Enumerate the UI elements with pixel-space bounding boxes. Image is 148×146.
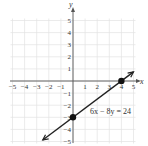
svg-text:3: 3: [68, 41, 72, 49]
svg-text:1: 1: [68, 65, 72, 73]
svg-text:2: 2: [68, 53, 72, 61]
svg-text:1: 1: [83, 83, 87, 91]
svg-text:−5: −5: [9, 83, 17, 91]
tick-labels: −5−4−3−2−11234554321−1−2−3−4−5: [9, 17, 136, 146]
svg-text:2: 2: [95, 83, 99, 91]
svg-text:−4: −4: [21, 83, 29, 91]
svg-text:4: 4: [120, 83, 124, 91]
y-axis-label: y: [68, 0, 73, 9]
svg-text:4: 4: [68, 29, 72, 37]
svg-text:5: 5: [68, 17, 72, 25]
equation-label: 6x − 8y = 24: [90, 107, 131, 116]
svg-text:−5: −5: [64, 138, 72, 146]
svg-text:5: 5: [132, 83, 136, 91]
svg-text:−2: −2: [45, 83, 53, 91]
svg-text:−2: −2: [64, 102, 72, 110]
x-axis-label: x: [139, 77, 144, 86]
coordinate-graph: −5−4−3−2−11234554321−1−2−3−4−5 x y 6x − …: [0, 0, 148, 146]
svg-text:−4: −4: [64, 126, 72, 134]
svg-text:−1: −1: [64, 90, 72, 98]
svg-text:−3: −3: [33, 83, 41, 91]
